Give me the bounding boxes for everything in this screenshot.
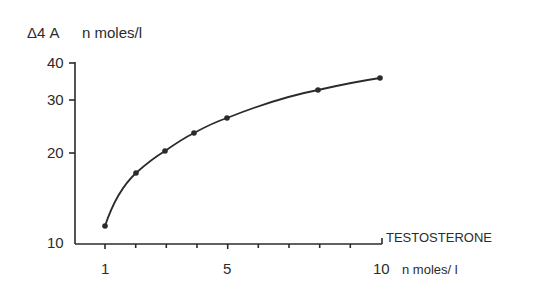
x-tick-1: 1 bbox=[101, 260, 109, 277]
y-tick-40: 40 bbox=[47, 54, 64, 71]
y-tick-30: 30 bbox=[47, 91, 64, 108]
x-axis-title: TESTOSTERONE bbox=[386, 230, 492, 245]
y-tick-10: 10 bbox=[47, 234, 64, 251]
data-point bbox=[377, 75, 383, 81]
data-point bbox=[224, 115, 230, 121]
data-point bbox=[102, 223, 108, 229]
data-point bbox=[162, 148, 168, 154]
x-tick-10: 10 bbox=[373, 260, 390, 277]
chart: Δ4 A n moles/l 40 30 20 10 1 5 10 TESTOS… bbox=[0, 0, 534, 296]
data-point bbox=[133, 170, 139, 176]
y-axis-title: Δ4 A bbox=[27, 24, 60, 41]
fitted-curve bbox=[105, 78, 380, 226]
x-axis bbox=[75, 238, 382, 249]
y-axis-units: n moles/l bbox=[82, 24, 142, 41]
y-tick-20: 20 bbox=[47, 144, 64, 161]
data-points bbox=[102, 75, 383, 229]
y-axis bbox=[69, 62, 75, 244]
x-tick-5: 5 bbox=[223, 260, 231, 277]
x-axis-units: n moles/ l bbox=[402, 262, 458, 277]
data-point bbox=[191, 130, 197, 136]
data-point bbox=[315, 87, 321, 93]
